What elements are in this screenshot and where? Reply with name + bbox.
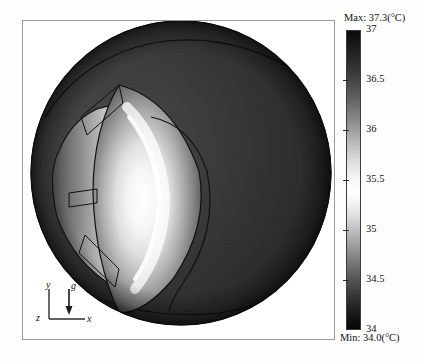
colorbar-tick-label: 35 bbox=[366, 224, 377, 235]
colorbar-tick bbox=[343, 80, 349, 81]
colorbar-min-label: Min: 34.0(°C) bbox=[340, 333, 400, 344]
colorbar-tick-label: 36 bbox=[366, 124, 377, 135]
colorbar-max-label: Max: 37.3(°C) bbox=[344, 13, 405, 24]
colorbar-tick bbox=[343, 230, 349, 231]
plot-frame: y g x z bbox=[22, 20, 335, 340]
colorbar-tick bbox=[343, 130, 349, 131]
temperature-colorbar: 3736.53635.53534.534 bbox=[346, 30, 361, 330]
axis-label-z: z bbox=[36, 313, 40, 323]
colorbar-tick-label: 37 bbox=[366, 24, 377, 35]
colorbar-tick bbox=[343, 280, 349, 281]
coordinate-axis-indicator: y g x z bbox=[35, 279, 97, 331]
gravity-label-g: g bbox=[71, 281, 76, 291]
axis-label-x: x bbox=[87, 314, 91, 324]
colorbar-tick-label: 35.5 bbox=[366, 174, 384, 185]
colorbar-tick bbox=[343, 180, 349, 181]
colorbar-tick-label: 36.5 bbox=[366, 74, 384, 85]
figure-root: y g x z Max: 37.3(°C) 3736.53635.53534.5… bbox=[0, 0, 421, 362]
colorbar-tick-label: 34.5 bbox=[366, 274, 384, 285]
axis-label-y: y bbox=[46, 280, 50, 290]
